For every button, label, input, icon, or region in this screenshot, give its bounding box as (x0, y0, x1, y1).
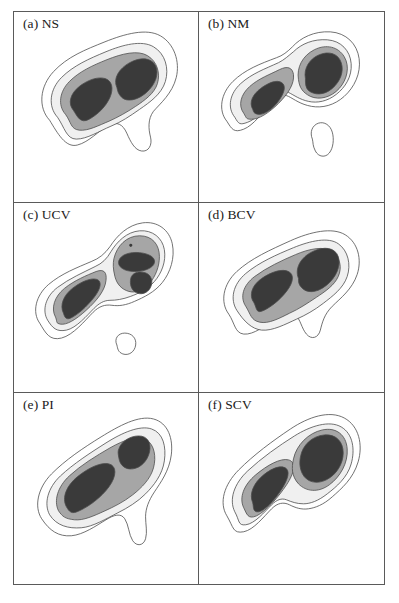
contour-level-4-upper-right (119, 252, 155, 271)
panel-label-bcv: (d) BCV (208, 208, 256, 222)
contour-plot-nm (199, 12, 384, 202)
panel-scv: (f) SCV (199, 393, 384, 584)
panel-grid: (a) NS (b) NM (14, 12, 384, 584)
contour-plot-bcv (199, 203, 384, 393)
contour-plot-pi (14, 393, 198, 584)
panel-label-ucv: (c) UCV (23, 208, 71, 222)
contour-plot-scv (199, 393, 384, 584)
satellite-blob-outer (311, 123, 333, 156)
panel-ucv: (c) UCV (14, 203, 199, 394)
panel-label-scv: (f) SCV (208, 398, 252, 412)
panel-label-pi: (e) PI (23, 398, 54, 412)
panel-bcv: (d) BCV (199, 203, 384, 394)
panel-pi: (e) PI (14, 393, 199, 584)
contour-level-4-lower-right (130, 272, 151, 294)
contour-plot-ucv (14, 203, 198, 393)
panel-nm: (b) NM (199, 12, 384, 203)
panel-ns: (a) NS (14, 12, 199, 203)
figure-root: (a) NS (b) NM (0, 0, 399, 603)
figure-outer-frame: (a) NS (b) NM (13, 11, 385, 585)
panel-label-nm: (b) NM (208, 17, 249, 31)
contour-plot-ns (14, 12, 198, 202)
contour-minimum-dot (129, 243, 132, 246)
panel-label-ns: (a) NS (23, 17, 59, 31)
satellite-blob-outer (116, 333, 136, 354)
